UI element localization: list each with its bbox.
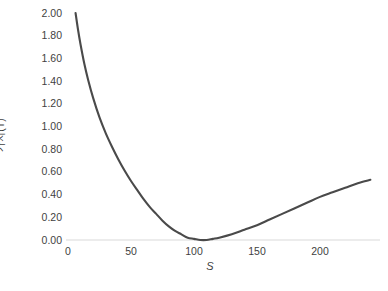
plot-area: [0, 0, 388, 291]
value-curve: [76, 13, 371, 240]
chart-container: 가치(T) 0.000.200.400.600.801.001.201.401.…: [0, 0, 388, 291]
